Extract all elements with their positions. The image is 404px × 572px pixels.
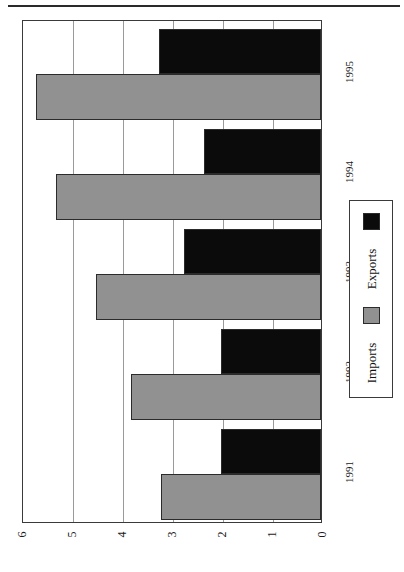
- value-tick-3: 3: [165, 523, 180, 547]
- plot-area: [22, 20, 322, 523]
- value-tick-2: 2: [215, 523, 230, 547]
- value-tick-4: 4: [115, 523, 130, 547]
- category-band-1992: [23, 329, 321, 421]
- bar-exports-1993: [184, 229, 322, 274]
- category-label-1991: 1991: [343, 449, 355, 495]
- bar-exports-1994: [204, 129, 322, 174]
- bar-chart-figure: 6 5 4 3 2 1 0 1995 1994 1993 1992 1991 E…: [0, 0, 404, 572]
- value-tick-1: 1: [265, 523, 280, 547]
- category-label-1995: 1995: [343, 49, 355, 95]
- bar-imports-1995: [36, 74, 321, 120]
- category-label-1994: 1994: [343, 149, 355, 195]
- category-band-1991: [23, 429, 321, 521]
- legend-entry-imports: Imports: [350, 301, 394, 397]
- category-band-1994: [23, 129, 321, 221]
- legend-label-exports: Exports: [364, 233, 380, 305]
- value-tick-6: 6: [15, 523, 30, 547]
- category-band-1995: [23, 29, 321, 121]
- legend-swatch-exports: [363, 213, 380, 230]
- bar-imports-1991: [161, 474, 321, 520]
- bar-exports-1991: [221, 429, 321, 474]
- category-band-1993: [23, 229, 321, 321]
- bar-imports-1992: [131, 374, 321, 420]
- legend-entry-exports: Exports: [350, 207, 394, 303]
- chart-legend: Exports Imports: [349, 200, 393, 398]
- bar-imports-1994: [56, 174, 321, 220]
- bar-exports-1992: [221, 329, 321, 374]
- legend-swatch-imports: [363, 307, 380, 324]
- value-tick-5: 5: [65, 523, 80, 547]
- bar-imports-1993: [96, 274, 321, 320]
- value-tick-0: 0: [315, 523, 330, 547]
- legend-label-imports: Imports: [364, 327, 380, 399]
- bar-exports-1995: [159, 29, 322, 74]
